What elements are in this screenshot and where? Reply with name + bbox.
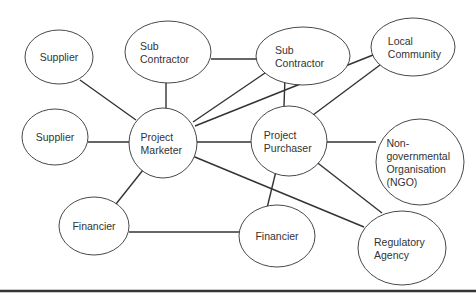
node-label: Supplier bbox=[36, 131, 75, 143]
nodes-layer: SupplierSubContractorSubContractorLocalC… bbox=[22, 18, 464, 285]
stakeholder-diagram: SupplierSubContractorSubContractorLocalC… bbox=[0, 0, 476, 297]
node-local-community: LocalCommunity bbox=[371, 18, 455, 76]
edge-sub-contractor-2-to-project-marketer bbox=[193, 73, 265, 122]
node-label: Financier bbox=[72, 220, 116, 232]
node-label: Supplier bbox=[40, 51, 79, 63]
node-project-marketer: ProjectMarketer bbox=[129, 108, 197, 178]
edges-layer bbox=[80, 55, 382, 232]
node-sub-contractor-2: SubContractor bbox=[256, 27, 350, 85]
node-supplier-2: Supplier bbox=[22, 109, 88, 165]
edge-supplier-1-to-project-marketer bbox=[80, 80, 136, 120]
node-supplier-1: Supplier bbox=[25, 30, 93, 84]
node-financier-1: Financier bbox=[59, 197, 129, 255]
diagram-canvas: SupplierSubContractorSubContractorLocalC… bbox=[0, 0, 476, 297]
node-financier-2: Financier bbox=[239, 205, 315, 267]
node-sub-contractor-1: SubContractor bbox=[125, 21, 211, 83]
node-project-purchaser: ProjectPurchaser bbox=[251, 106, 327, 176]
node-label: Financier bbox=[255, 230, 299, 242]
node-regulatory-agency: RegulatoryAgency bbox=[358, 211, 446, 285]
edge-project-purchaser-to-regulatory-agency bbox=[310, 157, 382, 213]
node-ngo: Non-governmentalOrganisation(NGO) bbox=[376, 119, 464, 205]
